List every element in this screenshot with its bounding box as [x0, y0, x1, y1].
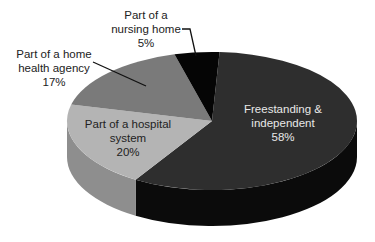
svg-text:Part of a home: Part of a home: [16, 48, 91, 60]
svg-text:Freestanding &: Freestanding &: [244, 103, 322, 115]
pie-chart: Freestanding & independent 58% Part of a…: [0, 0, 375, 242]
svg-text:20%: 20%: [116, 146, 139, 158]
svg-text:independent: independent: [251, 117, 315, 129]
leader-line-nursing-home: [182, 29, 196, 56]
svg-text:Part of a: Part of a: [124, 9, 168, 21]
svg-text:5%: 5%: [138, 37, 155, 49]
svg-text:health agency: health agency: [18, 62, 90, 74]
svg-text:17%: 17%: [42, 76, 65, 88]
svg-text:Part of a hospital: Part of a hospital: [85, 118, 171, 130]
slice-label-nursing-home: Part of a nursing home 5%: [111, 9, 181, 49]
svg-text:system: system: [110, 132, 146, 144]
svg-text:nursing home: nursing home: [111, 23, 181, 35]
svg-text:58%: 58%: [271, 131, 294, 143]
slice-label-home-health: Part of a home health agency 17%: [16, 48, 91, 88]
